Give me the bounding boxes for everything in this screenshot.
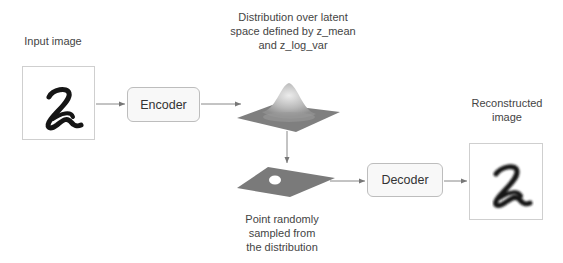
diagram-graphics xyxy=(0,0,563,263)
sampled-point-icon xyxy=(269,176,281,185)
gaussian-distribution-surface-icon xyxy=(237,83,340,132)
latent-sample-plane-icon xyxy=(237,167,335,197)
